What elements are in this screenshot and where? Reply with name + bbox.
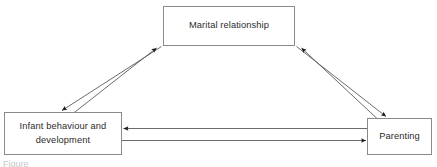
edge-parenting-to-marital (302, 48, 378, 119)
diagram-canvas: Marital relationship Infant behaviour an… (0, 0, 437, 167)
node-infant-behaviour-and-development[interactable]: Infant behaviour and development (4, 112, 122, 155)
node-parenting[interactable]: Parenting (367, 118, 432, 155)
edge-infant-to-marital (73, 48, 157, 114)
node-marital-relationship-label: Marital relationship (185, 19, 273, 32)
node-marital-relationship[interactable]: Marital relationship (163, 6, 295, 46)
figure-caption: Figure (3, 159, 183, 167)
node-parenting-label: Parenting (375, 130, 424, 143)
edge-marital-to-parenting (297, 47, 387, 117)
node-infant-behaviour-and-development-label: Infant behaviour and development (16, 120, 111, 147)
